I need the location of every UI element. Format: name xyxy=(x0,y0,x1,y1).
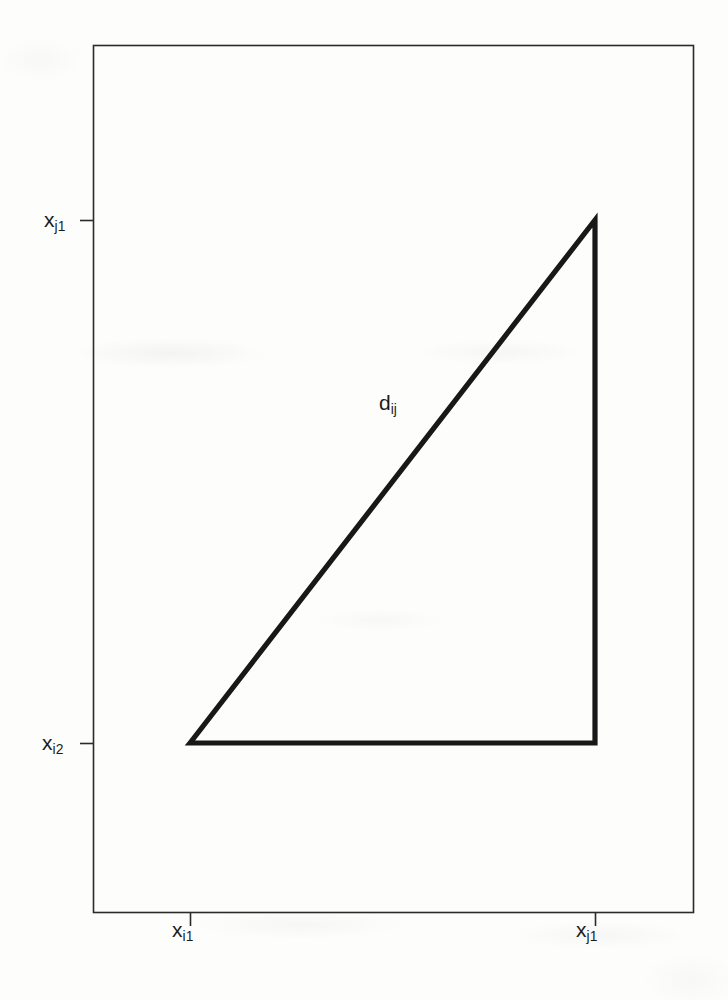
y-axis-label-bottom-base: x xyxy=(42,731,53,754)
x-axis-label-left-sub: i1 xyxy=(183,928,194,944)
y-axis-label-bottom-sub: i2 xyxy=(53,741,64,757)
y-axis-label-top-sub: j1 xyxy=(55,218,66,234)
x-axis-label-right-base: x xyxy=(576,918,587,941)
x-axis-label-right: xj1 xyxy=(576,919,598,940)
y-axis-label-top: xj1 xyxy=(44,209,66,230)
y-axis-label-bottom: xi2 xyxy=(42,732,64,753)
x-axis-label-left-base: x xyxy=(172,918,183,941)
x-axis-label-left: xi1 xyxy=(172,919,194,940)
x-axis-label-right-sub: j1 xyxy=(587,928,598,944)
y-axis-label-top-base: x xyxy=(44,208,55,231)
hypotenuse-label-sub: ij xyxy=(391,401,397,417)
triangle-shape xyxy=(190,220,595,743)
hypotenuse-distance-label: dij xyxy=(379,392,397,413)
hypotenuse-label-base: d xyxy=(379,391,391,414)
distance-triangle-figure xyxy=(0,0,728,1000)
figure-page: xj1 xi2 xi1 xj1 dij xyxy=(0,0,728,1000)
